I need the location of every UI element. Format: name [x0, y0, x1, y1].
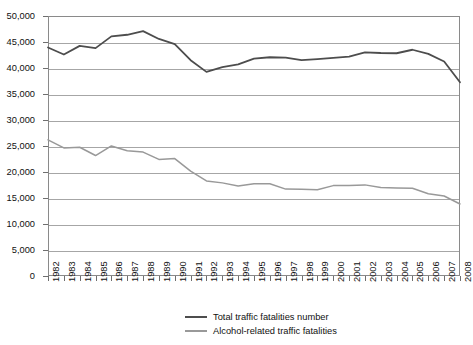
x-axis-tick-mark [349, 276, 350, 281]
x-axis-tick-mark [286, 276, 287, 281]
y-axis-tick-label: 0 [30, 271, 35, 281]
x-axis-tick-mark [143, 276, 144, 281]
x-axis-tick-mark [460, 276, 461, 281]
y-axis-tick-label: 5,000 [12, 245, 35, 255]
x-axis-tick-label: 1985 [100, 261, 109, 282]
x-axis-tick-mark [254, 276, 255, 281]
x-axis-tick-label: 1989 [163, 261, 172, 282]
legend-label: Alcohol-related traffic fatalities [213, 326, 337, 336]
legend-item: Alcohol-related traffic fatalities [185, 326, 337, 336]
x-axis-tick-label: 2002 [369, 261, 378, 282]
y-axis-tick-label: 50,000 [7, 11, 35, 21]
x-axis-tick-mark [127, 276, 128, 281]
x-axis-tick-label: 1999 [321, 261, 330, 282]
x-axis-tick-mark [302, 276, 303, 281]
y-axis-tick-label: 10,000 [7, 219, 35, 229]
legend-item: Total traffic fatalities number [185, 312, 329, 322]
x-axis-tick-mark [111, 276, 112, 281]
y-axis-tick-label: 15,000 [7, 193, 35, 203]
x-axis-tick-mark [412, 276, 413, 281]
series-line [48, 31, 460, 82]
x-axis-tick-mark [444, 276, 445, 281]
x-axis-tick-label: 2008 [464, 261, 473, 282]
y-axis-tick-label: 45,000 [7, 37, 35, 47]
series-layer [48, 16, 460, 276]
x-axis-tick-mark [381, 276, 382, 281]
x-axis-tick-mark [96, 276, 97, 281]
x-axis-tick-mark [222, 276, 223, 281]
x-axis-tick-label: 2001 [353, 261, 362, 282]
x-axis-tick-label: 1990 [179, 261, 188, 282]
x-axis-tick-mark [397, 276, 398, 281]
x-axis-tick-mark [238, 276, 239, 281]
y-axis-tick-label: 35,000 [7, 89, 35, 99]
x-axis-tick-label: 1982 [52, 261, 61, 282]
legend-label: Total traffic fatalities number [213, 312, 329, 322]
y-axis-tick-label: 25,000 [7, 141, 35, 151]
x-axis-tick-label: 2007 [448, 261, 457, 282]
legend-color-swatch [185, 316, 207, 318]
x-axis-tick-mark [317, 276, 318, 281]
x-axis-tick-label: 1986 [115, 261, 124, 282]
x-axis-tick-mark [48, 276, 49, 281]
x-axis-tick-mark [159, 276, 160, 281]
x-axis-tick-label: 2006 [432, 261, 441, 282]
x-axis-tick-label: 1991 [195, 261, 204, 282]
legend-color-swatch [185, 330, 207, 332]
y-axis-tick-label: 40,000 [7, 63, 35, 73]
x-axis-tick-mark [333, 276, 334, 281]
x-axis-tick-label: 1992 [210, 261, 219, 282]
x-axis-tick-label: 1994 [242, 261, 251, 282]
x-axis-tick-mark [428, 276, 429, 281]
x-axis-tick-label: 1995 [258, 261, 267, 282]
x-axis-tick-label: 1987 [131, 261, 140, 282]
x-axis-tick-mark [191, 276, 192, 281]
x-axis-tick-label: 1988 [147, 261, 156, 282]
series-line [48, 140, 460, 204]
x-axis-tick-label: 2004 [401, 261, 410, 282]
x-axis-tick-label: 1984 [84, 261, 93, 282]
y-axis-tick-label: 30,000 [7, 115, 35, 125]
x-axis-tick-label: 1996 [274, 261, 283, 282]
x-axis-tick-mark [175, 276, 176, 281]
x-axis-tick-label: 1983 [68, 261, 77, 282]
x-axis-tick-label: 1998 [306, 261, 315, 282]
x-axis-tick-label: 2003 [385, 261, 394, 282]
x-axis-tick-label: 1993 [226, 261, 235, 282]
x-axis-tick-mark [206, 276, 207, 281]
x-axis-tick-mark [270, 276, 271, 281]
y-axis-tick-label: 20,000 [7, 167, 35, 177]
x-axis-tick-label: 2005 [416, 261, 425, 282]
x-axis-tick-label: 2000 [337, 261, 346, 282]
x-axis-tick-mark [64, 276, 65, 281]
x-axis-tick-label: 1997 [290, 261, 299, 282]
x-axis-tick-mark [80, 276, 81, 281]
x-axis-tick-mark [365, 276, 366, 281]
